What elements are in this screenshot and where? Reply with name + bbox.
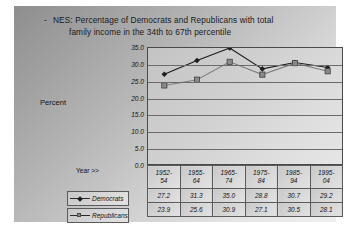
chart-legend: Democrats Republicans [65, 165, 147, 225]
y-tick-mark [147, 99, 148, 100]
y-tick-label: 35.0 [131, 44, 144, 51]
table-value-cell: 30.5 [278, 203, 311, 217]
data-point-marker [260, 66, 266, 72]
slide-body: - NES: Percentage of Democrats and Repub… [14, 6, 336, 222]
table-value-cell: 30.9 [213, 203, 246, 217]
table-value-cell: 35.0 [213, 189, 246, 203]
table-value-cell: 23.9 [148, 203, 181, 217]
y-tick-label: 15.0 [131, 111, 144, 118]
data-point-marker [227, 59, 232, 64]
table-header-cell: 1952-54 [148, 166, 181, 189]
gridline [148, 149, 342, 150]
table-header-cell: 1995-04 [310, 166, 343, 189]
y-tick-mark [147, 82, 148, 83]
table-value-cell: 31.3 [180, 189, 213, 203]
y-tick-label: 25.0 [131, 77, 144, 84]
gridline [148, 132, 342, 133]
title-line-1: - NES: Percentage of Democrats and Repub… [44, 14, 334, 26]
y-tick-mark [147, 132, 148, 133]
table-row-republicans: 23.925.630.927.130.528.1 [148, 203, 343, 217]
data-point-marker [162, 83, 167, 88]
square-marker-icon [70, 212, 90, 219]
table-value-cell: 29.2 [310, 189, 343, 203]
gridline [148, 65, 342, 66]
diamond-marker-icon [70, 195, 90, 202]
title-text-line-2: family income in the 34th to 67th percen… [44, 26, 334, 38]
table-header-cell: 1955-64 [180, 166, 213, 189]
bullet-dash-icon: - [44, 14, 53, 26]
legend-spacer [67, 167, 129, 189]
legend-table: Democrats Republicans [65, 165, 131, 225]
y-axis-ticks: 35.030.025.020.015.010.05.00.0 [122, 47, 146, 165]
y-tick-mark [147, 48, 148, 49]
table-header-cell: 1975-84 [245, 166, 278, 189]
table-value-cell: 27.2 [148, 189, 181, 203]
data-table: 1952-541955-641965-741975-841985-941995-… [147, 165, 343, 217]
table-value-cell: 30.7 [278, 189, 311, 203]
table-header-cell: 1985-94 [278, 166, 311, 189]
table-value-cell: 27.1 [245, 203, 278, 217]
y-tick-label: 20.0 [131, 94, 144, 101]
data-point-marker [194, 58, 200, 64]
table-value-cell: 28.1 [310, 203, 343, 217]
y-tick-mark [147, 65, 148, 66]
data-point-marker [162, 71, 168, 77]
plot-area [147, 47, 343, 165]
slide-canvas: - NES: Percentage of Democrats and Repub… [0, 0, 344, 230]
legend-label-republicans: Republicans [92, 212, 128, 220]
data-point-marker [325, 69, 330, 74]
gridline [148, 115, 342, 116]
y-tick-mark [147, 149, 148, 150]
y-tick-label: 10.0 [131, 128, 144, 135]
table-row-header: 1952-541955-641965-741975-841985-941995-… [148, 166, 343, 189]
slide-title-block: - NES: Percentage of Democrats and Repub… [44, 14, 334, 38]
series-line-democrats [164, 48, 327, 74]
gridline [148, 99, 342, 100]
y-axis-title: Percent [40, 98, 66, 107]
legend-row-democrats: Democrats [67, 191, 129, 206]
table-row-democrats: 27.231.335.028.830.729.2 [148, 189, 343, 203]
table-value-cell: 28.8 [245, 189, 278, 203]
title-text-line-1: NES: Percentage of Democrats and Republi… [53, 14, 273, 26]
table-header-cell: 1965-74 [213, 166, 246, 189]
legend-row-republicans: Republicans [67, 208, 129, 223]
table-value-cell: 25.6 [180, 203, 213, 217]
legend-label-democrats: Democrats [92, 195, 123, 203]
y-tick-mark [147, 115, 148, 116]
y-tick-label: 30.0 [131, 60, 144, 67]
y-tick-label: 5.0 [135, 145, 144, 152]
chart-and-table: 35.030.025.020.015.010.05.00.0 [122, 47, 344, 227]
gridline [148, 82, 342, 83]
data-point-marker [260, 72, 265, 77]
